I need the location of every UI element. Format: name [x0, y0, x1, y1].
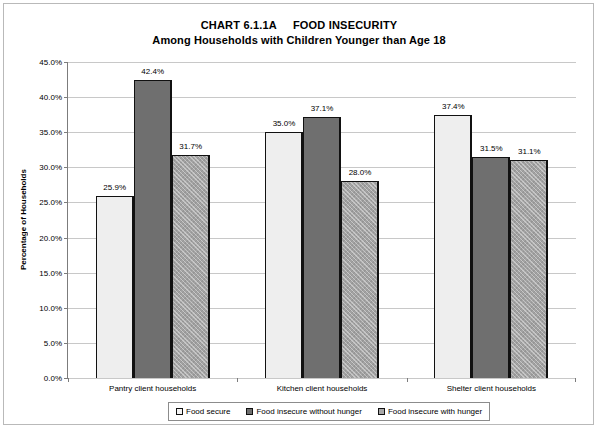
bar: [265, 132, 303, 378]
legend-label: Food insecure without hunger: [256, 407, 361, 416]
bar: [96, 196, 134, 378]
chart-title: CHART 6.1.1A FOOD INSECURITY: [0, 18, 598, 33]
bars-layer: 25.9%42.4%31.7%35.0%37.1%28.0%37.4%31.5%…: [68, 62, 576, 378]
x-axis-category-label: Pantry client households: [109, 384, 196, 393]
legend-swatch-icon: [378, 408, 385, 415]
y-axis-tick-label: 35.0%: [39, 128, 62, 137]
gridline: [68, 378, 576, 379]
bar-value-label: 31.5%: [480, 144, 503, 153]
legend-label: Food secure: [186, 407, 230, 416]
bar: [303, 117, 341, 378]
bar-value-label: 31.1%: [518, 147, 541, 156]
y-axis-tick-label: 25.0%: [39, 198, 62, 207]
x-axis-category-label: Shelter client households: [447, 384, 536, 393]
bar: [134, 80, 172, 378]
plot-area: 0.0%5.0%10.0%15.0%20.0%25.0%30.0%35.0%40…: [67, 62, 576, 379]
y-axis-tick-label: 0.0%: [44, 374, 62, 383]
chart-container: CHART 6.1.1A FOOD INSECURITY Among House…: [0, 0, 598, 429]
legend-swatch-icon: [176, 408, 183, 415]
x-axis-category-label: Kitchen client households: [277, 384, 368, 393]
bar: [341, 181, 379, 378]
legend-item: Food insecure without hunger: [246, 407, 361, 416]
bar-value-label: 35.0%: [273, 119, 296, 128]
chart-legend: Food secureFood insecure without hungerF…: [168, 402, 490, 421]
bar: [172, 155, 210, 378]
x-axis-tick: [575, 378, 576, 382]
x-axis-tick: [407, 378, 408, 382]
y-axis-tick-label: 20.0%: [39, 233, 62, 242]
bar: [510, 160, 548, 378]
bar-value-label: 31.7%: [179, 142, 202, 151]
bar-value-label: 25.9%: [103, 183, 126, 192]
legend-item: Food insecure with hunger: [378, 407, 482, 416]
x-axis-tick: [68, 378, 69, 382]
bar-value-label: 37.4%: [442, 102, 465, 111]
y-axis-tick-label: 45.0%: [39, 58, 62, 67]
bar-value-label: 28.0%: [349, 168, 372, 177]
legend-label: Food insecure with hunger: [388, 407, 482, 416]
legend-swatch-icon: [246, 408, 253, 415]
y-axis-tick-label: 5.0%: [44, 338, 62, 347]
y-axis-tick-label: 15.0%: [39, 268, 62, 277]
y-axis-tick-label: 10.0%: [39, 303, 62, 312]
bar-value-label: 42.4%: [141, 67, 164, 76]
bar-value-label: 37.1%: [311, 104, 334, 113]
y-axis-tick-label: 30.0%: [39, 163, 62, 172]
legend-item: Food secure: [176, 407, 230, 416]
y-axis-title: Percentage of Households: [17, 150, 31, 290]
x-axis-tick: [237, 378, 238, 382]
chart-subtitle: Among Households with Children Younger t…: [0, 33, 598, 48]
bar: [472, 157, 510, 378]
bar: [434, 115, 472, 378]
y-axis-tick-label: 40.0%: [39, 93, 62, 102]
chart-title-block: CHART 6.1.1A FOOD INSECURITY Among House…: [0, 18, 598, 48]
